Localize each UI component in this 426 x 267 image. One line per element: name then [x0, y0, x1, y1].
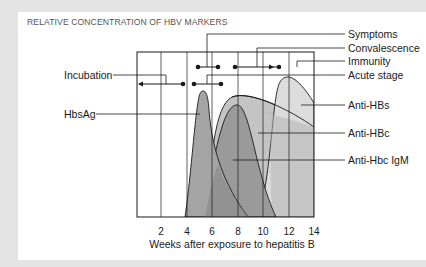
label-symptoms: Symptoms [348, 28, 398, 40]
incubation-leader [113, 75, 166, 84]
x-axis-label: Weeks after exposure to hepatitis B [149, 238, 315, 250]
svg-text:4: 4 [184, 226, 190, 237]
svg-text:14: 14 [308, 226, 320, 237]
label-immunity: Immunity [348, 55, 391, 67]
svg-text:6: 6 [209, 226, 215, 237]
svg-text:10: 10 [257, 226, 269, 237]
label-convalescence: Convalescence [348, 42, 420, 54]
svg-text:2: 2 [158, 226, 164, 237]
svg-text:8: 8 [235, 226, 241, 237]
immunity-leader [297, 61, 345, 67]
label-hbsag: HbsAg [64, 108, 96, 120]
label-anti-hbs: Anti-HBs [348, 99, 389, 111]
convalescence-leader [257, 48, 345, 67]
label-anti-hbc-igm: Anti-Hbc IgM [348, 154, 409, 166]
hbv-markers-diagram: Symptoms Convalescence Immunity Acute st… [0, 0, 426, 267]
label-incubation: Incubation [64, 69, 113, 81]
acute-stage-bar [192, 82, 224, 87]
label-acute-stage: Acute stage [348, 69, 404, 81]
x-axis-ticks: 2 4 6 8 10 12 14 [158, 226, 320, 237]
symptoms-leader [207, 34, 345, 67]
acute-stage-leader [207, 75, 345, 84]
incubation-bar [138, 82, 185, 87]
svg-text:12: 12 [283, 226, 295, 237]
label-anti-hbc: Anti-HBc [348, 127, 389, 139]
symptoms-bar [196, 65, 221, 70]
